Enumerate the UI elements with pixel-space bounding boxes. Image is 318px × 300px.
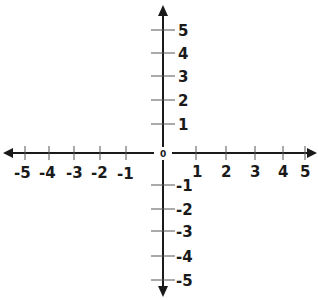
- x-label: 5: [300, 163, 310, 181]
- x-label: 4: [278, 163, 288, 181]
- y-axis-up-arrow-icon: [158, 5, 168, 16]
- y-label: -1: [176, 177, 193, 195]
- y-label: 3: [178, 68, 188, 86]
- y-label: 1: [178, 116, 188, 134]
- x-axis-left-arrow-icon: [3, 148, 13, 158]
- x-label: -5: [14, 164, 31, 182]
- x-label: -4: [39, 164, 56, 182]
- y-axis-positive-labels: 5 4 3 2 1: [178, 22, 188, 134]
- x-axis-positive-labels: 1 2 3 4 5: [192, 163, 310, 181]
- y-label: -2: [176, 201, 193, 219]
- x-axis-right-arrow-icon: [307, 148, 317, 158]
- y-label: -4: [176, 248, 193, 266]
- y-axis-negative-labels: -1 -2 -3 -4 -5: [176, 177, 193, 290]
- x-label: -3: [66, 164, 83, 182]
- x-label: -1: [117, 165, 134, 183]
- y-label: 5: [178, 22, 188, 40]
- y-label: 2: [178, 92, 188, 110]
- x-label: -2: [91, 164, 108, 182]
- y-label: -3: [176, 223, 193, 241]
- x-label: 2: [221, 163, 231, 181]
- y-axis-down-arrow-icon: [158, 286, 168, 297]
- coordinate-plane: 0 -5 -4 -3 -2 -1 1 2 3 4 5 5 4 3 2 1 -1 …: [0, 0, 318, 300]
- y-label: 4: [178, 45, 188, 63]
- x-label: 1: [192, 163, 202, 181]
- x-label: 3: [250, 163, 260, 181]
- y-label: -5: [176, 272, 193, 290]
- origin-label: 0: [160, 149, 166, 159]
- x-axis-negative-labels: -5 -4 -3 -2 -1: [14, 164, 134, 183]
